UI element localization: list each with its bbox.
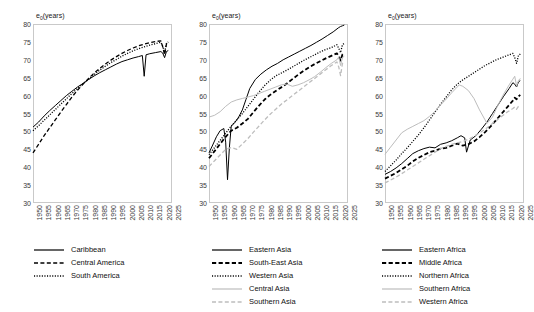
- legend-panel-2: Eastern AsiaSouth-East AsiaWestern AsiaC…: [176, 243, 352, 308]
- x-axis-tick-label: 1950: [212, 205, 219, 221]
- series-line-south-america: [33, 42, 168, 131]
- y-axis-tick-label: 65: [189, 74, 207, 81]
- x-axis-tick-label: 1955: [221, 205, 228, 221]
- x-axis-tick-label: 1995: [471, 205, 478, 221]
- x-axis-tick-label: 1985: [453, 205, 460, 221]
- y-axis-tick-label: 40: [189, 164, 207, 171]
- legend-line-swatch: [34, 271, 64, 281]
- x-axis-tick-label: 1995: [119, 205, 126, 221]
- series-line-south-east-asia: [209, 53, 344, 159]
- x-axis-tick-label: 1965: [64, 205, 71, 221]
- legend-item[interactable]: Western Africa: [352, 295, 529, 308]
- y-axis-tick-label: 80: [365, 21, 383, 28]
- panel-latin-america-caribbean: e0(years) 3035404550556065707580 1950195…: [0, 0, 176, 312]
- x-axis-tick-label: 2020: [342, 205, 349, 221]
- x-axis-tick-label: 2005: [138, 205, 145, 221]
- legend-item[interactable]: South America: [0, 269, 176, 282]
- legend-item[interactable]: Central Asia: [176, 282, 352, 295]
- x-axis-tick-label: 2010: [147, 205, 154, 221]
- legend-item[interactable]: Southern Africa: [352, 282, 529, 295]
- legend-line-swatch: [382, 245, 412, 255]
- legend-item-label: Western Asia: [249, 271, 293, 280]
- x-axis-tick-label: 1950: [36, 205, 43, 221]
- legend-line-swatch: [212, 297, 242, 307]
- y-axis-tick-label: 60: [13, 92, 31, 99]
- x-axis-ticks-panel-2: 1950195519601965197019751980198519901995…: [209, 205, 348, 239]
- series-line-central-america: [33, 41, 168, 153]
- x-axis-tick-label: 2025: [527, 205, 534, 221]
- y-axis-label-text: e0(years): [388, 12, 416, 19]
- legend-line-swatch: [382, 284, 412, 294]
- y-axis-ticks-panel-2: 3035404550556065707580: [186, 24, 207, 203]
- y-axis-label-panel-1: e0(years): [36, 12, 64, 21]
- legend-item[interactable]: South-East Asia: [176, 256, 352, 269]
- x-axis-tick-label: 2015: [156, 205, 163, 221]
- legend-item-label: Middle Africa: [419, 258, 462, 267]
- x-axis-tick-label: 1960: [55, 205, 62, 221]
- legend-item-label: Eastern Africa: [419, 245, 466, 254]
- legend-line-swatch: [212, 284, 242, 294]
- y-axis-tick-label: 45: [13, 146, 31, 153]
- series-lines-panel-1: [33, 24, 172, 203]
- panel-africa: e0(years) 3035404550556065707580 1950195…: [352, 0, 529, 312]
- x-axis-tick-label: 1950: [388, 205, 395, 221]
- series-line-eastern-africa: [385, 81, 520, 175]
- series-line-northern-africa: [385, 53, 520, 171]
- plot-area-panel-1: [33, 24, 172, 203]
- x-axis-tick-label: 1970: [249, 205, 256, 221]
- legend-panel-3: Eastern AfricaMiddle AfricaNorthern Afri…: [352, 243, 529, 308]
- legend-item-label: South America: [71, 271, 120, 280]
- legend-line-swatch: [382, 297, 412, 307]
- y-axis-tick-label: 70: [365, 56, 383, 63]
- y-axis-tick-label: 35: [365, 182, 383, 189]
- x-axis-tick-label: 1970: [73, 205, 80, 221]
- legend-item[interactable]: Caribbean: [0, 243, 176, 256]
- x-axis-tick-label: 2015: [332, 205, 339, 221]
- legend-item-label: Eastern Asia: [249, 245, 291, 254]
- x-axis-tick-label: 1990: [110, 205, 117, 221]
- legend-line-swatch: [212, 245, 242, 255]
- legend-line-swatch: [212, 258, 242, 268]
- legend-item-label: Western Africa: [419, 297, 468, 306]
- y-axis-tick-label: 55: [13, 110, 31, 117]
- legend-item[interactable]: Middle Africa: [352, 256, 529, 269]
- x-axis-tick-label: 1960: [231, 205, 238, 221]
- y-axis-tick-label: 50: [365, 128, 383, 135]
- y-axis-tick-label: 75: [365, 38, 383, 45]
- y-axis-tick-label: 80: [189, 21, 207, 28]
- y-axis-label-panel-3: e0(years): [388, 12, 416, 21]
- legend-item[interactable]: Southern Asia: [176, 295, 352, 308]
- legend-item[interactable]: Central America: [0, 256, 176, 269]
- x-axis-tick-label: 1980: [268, 205, 275, 221]
- x-axis-tick-label: 1990: [286, 205, 293, 221]
- legend-line-swatch: [34, 258, 64, 268]
- x-axis-tick-label: 1980: [444, 205, 451, 221]
- y-axis-tick-label: 55: [365, 110, 383, 117]
- legend-line-swatch: [382, 271, 412, 281]
- x-axis-tick-label: 2020: [166, 205, 173, 221]
- legend-item-label: South-East Asia: [249, 258, 302, 267]
- y-axis-ticks-panel-1: 3035404550556065707580: [10, 24, 31, 203]
- legend-item[interactable]: Eastern Africa: [352, 243, 529, 256]
- series-line-caribbean: [33, 50, 168, 127]
- y-axis-tick-label: 60: [365, 92, 383, 99]
- y-axis-tick-label: 75: [189, 38, 207, 45]
- x-axis-tick-label: 2010: [323, 205, 330, 221]
- x-axis-tick-label: 1965: [240, 205, 247, 221]
- x-axis-tick-label: 1955: [45, 205, 52, 221]
- legend-item-label: Northern Africa: [419, 271, 469, 280]
- series-line-middle-africa: [385, 95, 520, 179]
- panel-asia: e0(years) 3035404550556065707580 1950195…: [176, 0, 352, 312]
- y-axis-tick-label: 75: [13, 38, 31, 45]
- legend-item-label: Central America: [71, 258, 124, 267]
- legend-item[interactable]: Eastern Asia: [176, 243, 352, 256]
- y-axis-tick-label: 65: [365, 74, 383, 81]
- plot-area-panel-3: [385, 24, 524, 203]
- legend-item[interactable]: Western Asia: [176, 269, 352, 282]
- y-axis-tick-label: 60: [189, 92, 207, 99]
- legend-item[interactable]: Northern Africa: [352, 269, 529, 282]
- x-axis-tick-label: 1985: [277, 205, 284, 221]
- y-axis-tick-label: 50: [13, 128, 31, 135]
- x-axis-tick-label: 2005: [490, 205, 497, 221]
